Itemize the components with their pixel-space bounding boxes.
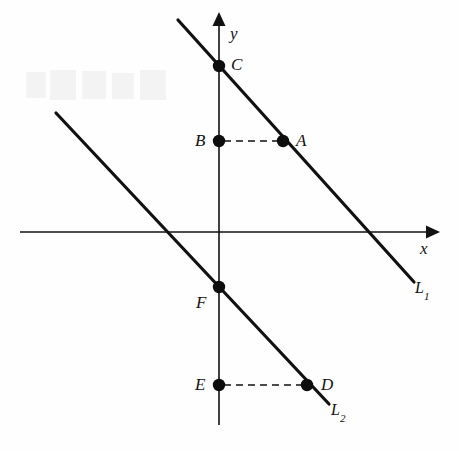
point-label-D: D xyxy=(321,376,333,393)
line-label-L1-text: L xyxy=(415,279,424,296)
line-label-L1: L1 xyxy=(415,280,429,299)
point-label-C: C xyxy=(231,56,242,73)
x-axis-arrowhead xyxy=(426,226,440,239)
y-axis xyxy=(213,12,226,425)
line-label-L2-text: L xyxy=(331,401,340,418)
line-label-L1-subscript: 1 xyxy=(424,290,430,302)
point-label-B: B xyxy=(195,132,205,149)
line-L1 xyxy=(178,20,414,282)
point-label-F: F xyxy=(196,294,206,311)
figure-canvas xyxy=(0,0,459,451)
x-axis-label: x xyxy=(420,240,428,257)
x-axis xyxy=(20,226,440,239)
point-B xyxy=(213,135,225,147)
point-A xyxy=(277,135,289,147)
point-E xyxy=(213,379,225,391)
line-L2 xyxy=(56,113,329,404)
geometry-figure: y x C B A F E D L1 L2 xyxy=(0,0,459,451)
point-label-A: A xyxy=(296,132,306,149)
y-axis-arrowhead xyxy=(213,12,226,26)
line-label-L2-subscript: 2 xyxy=(340,412,346,424)
point-C xyxy=(213,60,225,72)
point-D xyxy=(301,379,313,391)
point-label-E: E xyxy=(195,376,205,393)
line-label-L2: L2 xyxy=(331,402,345,421)
y-axis-label: y xyxy=(230,25,238,42)
point-F xyxy=(213,281,225,293)
